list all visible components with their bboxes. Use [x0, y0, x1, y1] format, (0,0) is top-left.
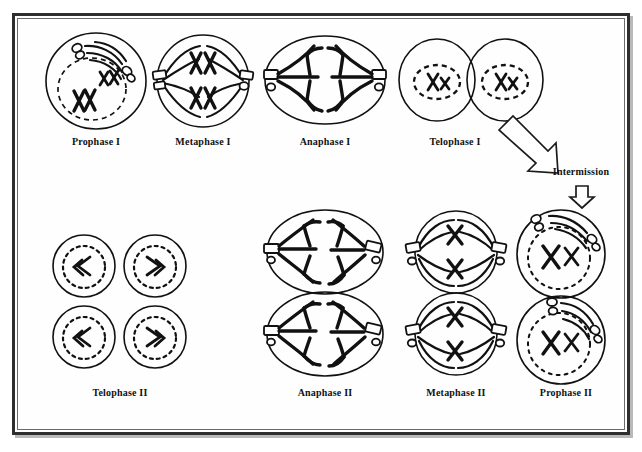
stage-prophase-1-figure — [38, 28, 154, 134]
haploid-cell-1 — [53, 235, 115, 297]
prophase-1-drawing — [38, 28, 154, 134]
nuclear-envelope-breaking — [528, 227, 590, 289]
chromosome-right — [565, 334, 578, 351]
aster-fibers — [549, 216, 587, 248]
chromosomes-right-pole — [328, 46, 372, 111]
nuclear-envelope-dotted — [63, 246, 105, 288]
nuclear-envelope-dotted — [63, 317, 105, 359]
centriole-pair-top — [71, 42, 86, 60]
chromosome-right — [565, 248, 578, 265]
tetrad-upper — [191, 53, 215, 73]
stage-label-metaphase-2: Metaphase II — [426, 387, 485, 398]
anaphase-2-drawing — [258, 208, 392, 378]
chromatid — [147, 257, 164, 275]
stage-label-telophase-2: Telophase II — [92, 387, 147, 398]
chromosome-pair-b — [100, 71, 118, 85]
down-arrow-shape — [570, 186, 594, 208]
stage-telophase-2-figure — [50, 232, 190, 372]
chromosome-left — [543, 332, 559, 354]
chromosome-lower — [448, 342, 462, 360]
chromatids-right-pole — [328, 220, 365, 284]
chromosomes-left-pole — [278, 46, 322, 111]
haploid-cell-4 — [124, 306, 186, 368]
anaphase-1-drawing — [262, 30, 388, 130]
nuclear-envelope-breaking — [528, 313, 590, 375]
stage-anaphase-2-figure — [258, 208, 392, 378]
nuclear-envelope-dashed — [58, 58, 126, 120]
nuclear-envelope-dashed — [414, 65, 460, 99]
daughter-cell-b — [467, 39, 543, 121]
meiosis-diagram: Prophase I — [0, 0, 642, 452]
metaphase-2-cell-lower — [405, 293, 506, 375]
chromosomes — [496, 74, 517, 90]
stage-metaphase-2-figure — [400, 210, 512, 378]
chromatids-right-pole — [328, 302, 365, 366]
chromosome-lower — [448, 260, 462, 278]
diagonal-arrow-shape — [499, 116, 558, 173]
centriole-left — [405, 324, 420, 347]
centriole-left — [264, 70, 278, 91]
nuclear-envelope-dotted — [134, 317, 176, 359]
centriole-pair-upper-left — [530, 213, 545, 232]
chromosome-left — [543, 246, 559, 268]
centriole-left — [405, 242, 420, 265]
chromosomes — [428, 74, 449, 90]
centriole-pair-upper-left — [547, 298, 557, 315]
prophase-2-cell-upper — [517, 210, 605, 298]
centriole-left — [264, 326, 279, 345]
haploid-cell-3 — [53, 306, 115, 368]
stage-prophase-2-figure — [505, 208, 617, 380]
daughter-cell-a — [399, 39, 475, 121]
stage-label-prophase-2: Prophase II — [540, 387, 592, 398]
centriole-right — [365, 240, 382, 263]
metaphase-1-drawing — [150, 28, 256, 134]
stage-metaphase-1-figure — [150, 28, 256, 134]
telophase-2-drawing — [50, 232, 190, 372]
chromatids-left-pole — [279, 302, 320, 365]
nuclear-envelope-dotted — [134, 246, 176, 288]
centriole-pair-right — [121, 65, 137, 84]
cell-membrane — [265, 36, 385, 124]
stage-label-anaphase-1: Anaphase I — [300, 136, 351, 147]
stage-anaphase-1-figure — [262, 30, 388, 130]
anaphase-2-cell-upper — [264, 210, 383, 294]
metaphase-2-drawing — [400, 210, 512, 378]
chromatids-left-pole — [279, 220, 320, 283]
intermission-down-arrow — [567, 184, 597, 210]
chromosome-upper — [448, 226, 462, 244]
metaphase-2-cell-upper — [405, 211, 506, 293]
nuclear-envelope-dashed — [482, 65, 528, 99]
chromosome-upper — [448, 308, 462, 326]
spindle-fibers — [418, 220, 494, 286]
centriole-right — [372, 70, 386, 91]
tetrad-lower — [191, 88, 215, 108]
centriole-left — [264, 244, 279, 263]
stage-label-telophase-1: Telophase I — [429, 136, 480, 147]
haploid-cell-2 — [124, 235, 186, 297]
centriole-right — [365, 322, 382, 345]
chromosome-pair-a — [74, 90, 95, 111]
stage-label-anaphase-2: Anaphase II — [298, 387, 353, 398]
chromatid — [147, 328, 164, 346]
cell-membrane — [157, 35, 249, 127]
prophase-2-drawing — [505, 208, 617, 380]
intermission-label: Intermission — [553, 166, 609, 177]
spindle-fibers — [418, 302, 494, 368]
anaphase-2-cell-lower — [264, 292, 383, 376]
chromatid — [74, 257, 90, 275]
prophase-2-cell-lower — [517, 296, 605, 384]
stage-label-metaphase-1: Metaphase I — [175, 136, 230, 147]
chromatid — [74, 328, 90, 346]
stage-label-prophase-1: Prophase I — [72, 136, 120, 147]
